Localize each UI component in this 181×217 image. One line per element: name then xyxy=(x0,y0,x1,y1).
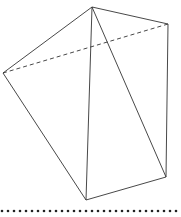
dot xyxy=(103,210,106,213)
dot xyxy=(169,210,172,213)
dot xyxy=(139,210,142,213)
edge-BE xyxy=(166,24,168,177)
dot xyxy=(73,210,76,213)
solid-edges xyxy=(3,7,168,200)
dot xyxy=(157,210,160,213)
dot xyxy=(13,210,16,213)
dot xyxy=(19,210,22,213)
dot xyxy=(43,210,46,213)
polyhedron-diagram xyxy=(0,0,181,217)
dot xyxy=(91,210,94,213)
dot xyxy=(7,210,10,213)
edge-AB xyxy=(92,7,168,24)
dot xyxy=(55,210,58,213)
dot xyxy=(175,210,178,213)
dot xyxy=(37,210,40,213)
edge-AE xyxy=(92,7,166,177)
dot xyxy=(25,210,28,213)
hidden-dashed-edge xyxy=(3,24,168,73)
dot xyxy=(127,210,130,213)
dot xyxy=(109,210,112,213)
dot xyxy=(151,210,154,213)
edge-CD xyxy=(3,73,86,200)
dot xyxy=(133,210,136,213)
dashed-edge-CB xyxy=(3,24,168,73)
dot xyxy=(145,210,148,213)
edge-DE xyxy=(86,177,166,200)
dot xyxy=(85,210,88,213)
dot xyxy=(67,210,70,213)
dot xyxy=(61,210,64,213)
dotted-baseline xyxy=(1,210,178,213)
dot xyxy=(121,210,124,213)
dot xyxy=(115,210,118,213)
dot xyxy=(49,210,52,213)
dot xyxy=(97,210,100,213)
dot xyxy=(79,210,82,213)
dot xyxy=(163,210,166,213)
edge-AC xyxy=(3,7,92,73)
edge-AD xyxy=(86,7,92,200)
dot xyxy=(1,210,4,213)
dot xyxy=(31,210,34,213)
